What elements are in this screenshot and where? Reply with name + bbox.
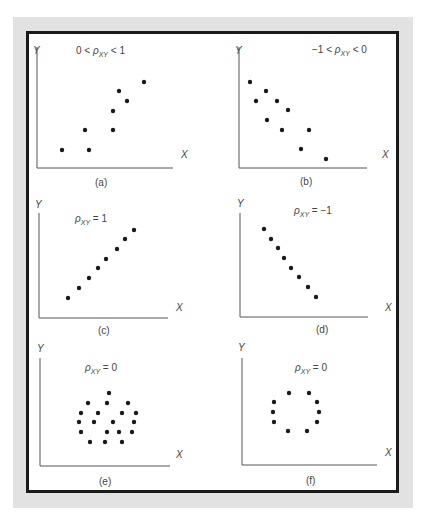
data-point [105, 430, 109, 434]
panel-c-title: ρXY = 1 [74, 213, 107, 226]
data-point [134, 411, 138, 415]
data-point [117, 89, 121, 93]
data-point [314, 295, 318, 299]
data-point [280, 128, 284, 132]
data-point [286, 108, 290, 112]
panel-d-y-label: Y [237, 198, 245, 209]
data-point [262, 227, 266, 231]
data-point [92, 420, 96, 424]
panel-d-axes [240, 213, 368, 317]
data-point [120, 440, 124, 444]
data-point [77, 420, 81, 424]
data-point [271, 410, 275, 414]
data-point [315, 420, 319, 424]
data-point [276, 246, 280, 250]
data-point [142, 80, 146, 84]
panel-f: Y X ρXY = 0 (f) [238, 342, 392, 486]
panel-e-caption: (e) [99, 476, 111, 487]
data-point [264, 89, 268, 93]
data-point [96, 411, 100, 415]
panel-f-y-label: Y [238, 342, 246, 353]
panel-d-caption: (d) [316, 324, 328, 335]
data-point [324, 157, 328, 161]
data-point [299, 147, 303, 151]
data-point [66, 296, 70, 300]
data-point [107, 391, 111, 395]
data-point [287, 391, 291, 395]
data-point [111, 420, 115, 424]
panel-e: Y X ρXY = 0 (e) [37, 343, 183, 487]
panel-f-caption: (f) [306, 475, 315, 486]
panel-c-points [66, 228, 136, 300]
panel-c-caption: (c) [98, 325, 110, 336]
data-point [315, 400, 319, 404]
data-point [282, 256, 286, 260]
data-point [305, 429, 309, 433]
panel-a-caption: (a) [95, 177, 107, 188]
data-point [248, 80, 252, 84]
data-point [286, 429, 290, 433]
data-point [289, 266, 293, 270]
data-point [87, 276, 91, 280]
data-point [307, 391, 311, 395]
data-point [103, 440, 107, 444]
panel-b-x-label: X [381, 149, 389, 160]
panel-b-title: −1 < ρXY < 0 [312, 44, 367, 57]
data-point [60, 148, 64, 152]
data-point [96, 266, 100, 270]
data-point [86, 401, 90, 405]
data-point [272, 420, 276, 424]
data-point [104, 257, 108, 261]
panel-e-y-label: Y [37, 343, 45, 354]
panel-c-axes [39, 213, 168, 318]
panel-b-points [248, 80, 328, 161]
data-point [317, 410, 321, 414]
data-point [111, 128, 115, 132]
panel-a-title: 0 < ρXY < 1 [76, 45, 125, 58]
data-point [130, 430, 134, 434]
data-point [254, 99, 258, 103]
data-point [87, 148, 91, 152]
panel-b-caption: (b) [300, 176, 312, 187]
data-point [88, 440, 92, 444]
data-point [297, 275, 301, 279]
data-point [111, 109, 115, 113]
panel-f-x-label: X [384, 447, 392, 458]
data-point [265, 118, 269, 122]
panel-c: Y X ρXY = 1 (c) [35, 199, 183, 336]
panel-e-points [77, 391, 138, 444]
panel-e-x-label: X [175, 449, 183, 460]
data-point [79, 411, 83, 415]
panel-e-axes [40, 358, 170, 466]
panel-b: Y X −1 < ρXY < 0 (b) [235, 44, 389, 187]
panel-c-x-label: X [175, 302, 183, 313]
panel-d-x-label: X [384, 302, 392, 313]
data-point [105, 401, 109, 405]
data-point [272, 400, 276, 404]
data-point [77, 286, 81, 290]
data-point [269, 237, 273, 241]
data-point [132, 228, 136, 232]
panel-a: Y X 0 < ρXY < 1 (a) [33, 45, 188, 188]
panel-a-axes [37, 47, 173, 168]
panel-f-title: ρXY = 0 [294, 362, 327, 375]
panel-b-y-label: Y [235, 45, 243, 56]
data-point [117, 430, 121, 434]
panel-a-y-label: Y [33, 45, 41, 56]
panel-d-title: ρXY = −1 [293, 205, 332, 218]
panel-d: Y X ρXY = −1 (d) [237, 198, 392, 335]
panel-c-y-label: Y [35, 199, 43, 210]
data-point [125, 99, 129, 103]
data-point [79, 430, 83, 434]
panel-d-points [262, 227, 318, 299]
panel-e-title: ρXY = 0 [84, 362, 117, 375]
data-point [115, 247, 119, 251]
data-point [126, 401, 130, 405]
data-point [120, 411, 124, 415]
correlation-scatter-figure: Y X 0 < ρXY < 1 (a) Y X −1 < ρXY < 0 (b)… [0, 0, 426, 520]
panel-f-points [271, 391, 321, 433]
data-point [132, 420, 136, 424]
data-point [123, 237, 127, 241]
data-point [307, 128, 311, 132]
data-point [306, 285, 310, 289]
